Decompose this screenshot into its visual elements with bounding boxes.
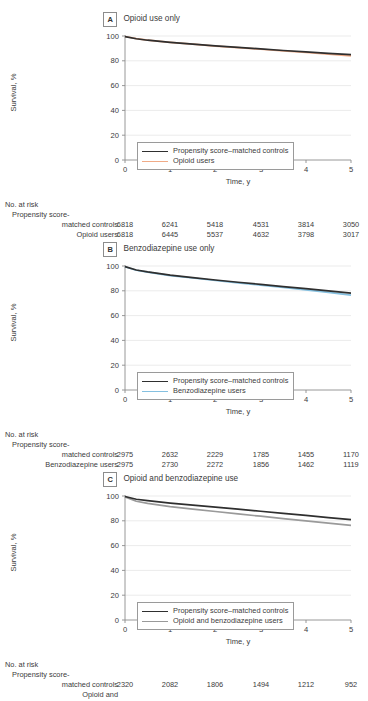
risk-value: 2632: [152, 450, 188, 460]
x-tick-label: 5: [349, 625, 353, 634]
risk-row-label: Benzodiazepine users: [0, 460, 118, 470]
x-tick-label: 0: [123, 165, 127, 174]
risk-value: 6241: [152, 220, 188, 230]
risk-value: 2229: [197, 450, 233, 460]
survival-curve: [125, 497, 351, 520]
legend-color-swatch: [142, 621, 168, 622]
legend-item: Opioid users: [142, 156, 288, 166]
chart-legend: Propensity score–matched controlsOpioid …: [137, 142, 294, 170]
risk-value: 2975: [107, 460, 143, 470]
y-tick-label: 80: [111, 516, 119, 525]
risk-row-label: Propensity score-: [12, 670, 212, 680]
risk-value: 2730: [152, 460, 188, 470]
risk-row-label: matched controls: [0, 450, 118, 460]
x-axis-label: Time, y: [125, 637, 351, 646]
x-tick-label: 0: [123, 625, 127, 634]
survival-curve: [125, 267, 351, 293]
y-tick-label: 20: [111, 131, 119, 140]
x-tick-label: 0: [123, 395, 127, 404]
risk-row: matched controls297526322229178514551170: [0, 450, 368, 460]
legend-item: Propensity score–matched controls: [142, 376, 288, 386]
risk-value: 3798: [288, 230, 324, 240]
panel-header: COpioid and benzodiazepine use: [103, 472, 238, 487]
legend-color-swatch: [142, 161, 168, 162]
risk-value: 6445: [152, 230, 188, 240]
risk-value: 1785: [243, 450, 279, 460]
y-tick-label: 20: [111, 361, 119, 370]
y-tick-label: 0: [115, 386, 119, 395]
legend-label: Propensity score–matched controls: [173, 607, 288, 614]
risk-value: 1462: [288, 460, 324, 470]
risk-value: 1170: [333, 450, 368, 460]
x-tick-label: 4: [304, 395, 308, 404]
legend-label: Propensity score–matched controls: [173, 377, 288, 384]
kaplan-meier-figure: AOpioid use only020406080100012345Surviv…: [0, 0, 368, 701]
y-axis-label: Survival, %: [9, 283, 18, 363]
legend-label: Opioid and benzodiazepine users: [173, 617, 283, 624]
legend-item: Propensity score–matched controls: [142, 606, 288, 616]
x-tick-label: 4: [304, 165, 308, 174]
plot-area: 020406080100012345Survival, %Time, yProp…: [0, 260, 368, 412]
y-axis-label: Survival, %: [9, 53, 18, 133]
y-tick-label: 40: [111, 336, 119, 345]
risk-value: 5537: [197, 230, 233, 240]
risk-value: 5418: [197, 220, 233, 230]
risk-row: Propensity score-: [0, 440, 368, 450]
panel-title: Benzodiazepine use only: [123, 245, 214, 253]
y-tick-label: 60: [111, 81, 119, 90]
plot-area: 020406080100012345Survival, %Time, yProp…: [0, 490, 368, 642]
survival-curve: [125, 37, 351, 55]
y-axis-label: Survival, %: [9, 513, 18, 593]
risk-row: Propensity score-: [0, 670, 368, 680]
risk-value: 1455: [288, 450, 324, 460]
risk-row: matched controls23202082180614941212952: [0, 680, 368, 690]
legend-item: Benzodiazepine users: [142, 386, 288, 396]
panel-letter-badge: C: [103, 472, 117, 487]
risk-row-label: Opioid and: [0, 690, 118, 700]
x-tick-label: 5: [349, 165, 353, 174]
risk-value: 4632: [243, 230, 279, 240]
risk-row: Benzodiazepine users29752730227218561462…: [0, 460, 368, 470]
risk-value: 3050: [333, 220, 368, 230]
y-tick-label: 20: [111, 591, 119, 600]
y-tick-label: 100: [106, 262, 119, 271]
x-tick-label: 5: [349, 395, 353, 404]
legend-item: Propensity score–matched controls: [142, 146, 288, 156]
risk-row-label: Opioid users: [0, 230, 118, 240]
risk-row: Opioid and: [0, 690, 368, 700]
panel-letter-badge: B: [103, 242, 117, 257]
risk-value: 1494: [243, 680, 279, 690]
y-tick-label: 100: [106, 32, 119, 41]
y-tick-label: 0: [115, 616, 119, 625]
y-tick-label: 60: [111, 311, 119, 320]
y-tick-label: 40: [111, 566, 119, 575]
y-tick-label: 40: [111, 106, 119, 115]
panel-header: BBenzodiazepine use only: [103, 242, 214, 257]
risk-value: 1212: [288, 680, 324, 690]
risk-value: 6818: [107, 230, 143, 240]
legend-color-swatch: [142, 391, 168, 392]
risk-row-label: matched controls: [0, 680, 118, 690]
legend-label: Opioid users: [173, 157, 215, 164]
risk-value: 2082: [152, 680, 188, 690]
legend-label: Benzodiazepine users: [173, 387, 246, 394]
risk-value: 2272: [197, 460, 233, 470]
risk-row-label: Propensity score-: [12, 210, 212, 220]
no-at-risk-title: No. at risk: [5, 430, 38, 439]
risk-value: 1856: [243, 460, 279, 470]
risk-row: matched controls681862415418453138143050: [0, 220, 368, 230]
risk-row: Opioid users681864455537463237983017: [0, 230, 368, 240]
x-axis-label: Time, y: [125, 177, 351, 186]
panel-title: Opioid use only: [123, 15, 179, 23]
y-tick-label: 0: [115, 156, 119, 165]
legend-color-swatch: [142, 381, 168, 382]
legend-color-swatch: [142, 151, 168, 152]
risk-value: 2320: [107, 680, 143, 690]
risk-value: 6818: [107, 220, 143, 230]
chart-legend: Propensity score–matched controlsBenzodi…: [137, 372, 294, 400]
y-tick-label: 80: [111, 286, 119, 295]
y-tick-label: 60: [111, 541, 119, 550]
y-tick-label: 80: [111, 56, 119, 65]
legend-color-swatch: [142, 611, 168, 612]
risk-value: 3017: [333, 230, 368, 240]
